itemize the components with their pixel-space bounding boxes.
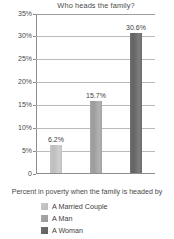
y-axis-tick-label: 0: [0, 170, 32, 177]
y-axis-tick-label: 5%: [0, 147, 32, 154]
y-axis-tick-label: 25%: [0, 55, 32, 62]
legend-item[interactable]: A Woman: [41, 225, 108, 236]
y-axis-tick: [33, 36, 36, 37]
y-axis-tick: [33, 59, 36, 60]
y-axis-tick: [33, 151, 36, 152]
chart-legend: A Married CoupleA ManA Woman: [41, 201, 108, 237]
chart-title: Who heads the family?: [36, 1, 156, 10]
y-axis-tick: [33, 105, 36, 106]
y-axis-tick-label: 30%: [0, 32, 32, 39]
legend-label: A Man: [52, 214, 72, 223]
legend-label: A Woman: [52, 226, 83, 235]
y-axis-tick-label: 20%: [0, 78, 32, 85]
x-axis-line: [36, 173, 155, 174]
bar-a-woman: [130, 33, 142, 173]
y-axis-tick: [33, 128, 36, 129]
bar-value-label: 15.7%: [81, 92, 111, 99]
legend-swatch-icon: [41, 203, 48, 210]
legend-swatch-icon: [41, 227, 48, 234]
legend-item[interactable]: A Married Couple: [41, 201, 108, 212]
y-axis-tick-label: 35%: [0, 10, 32, 17]
legend-label: A Married Couple: [52, 202, 108, 211]
legend-item[interactable]: A Man: [41, 213, 108, 224]
bar-value-label: 6.2%: [41, 136, 71, 143]
chart-figure: Who heads the family? 05%10%15%20%25%30%…: [0, 0, 174, 239]
bar-value-label: 30.6%: [121, 24, 151, 31]
gridline: [36, 14, 155, 15]
y-axis-tick: [33, 14, 36, 15]
bar-a-man: [90, 101, 102, 173]
legend-swatch-icon: [41, 215, 48, 222]
bar-a-married-couple: [50, 145, 62, 173]
y-axis-tick: [33, 82, 36, 83]
y-axis-tick: [33, 174, 36, 175]
y-axis-tick-label: 10%: [0, 124, 32, 131]
x-axis-caption: Percent in poverty when the family is he…: [0, 188, 174, 196]
y-axis-tick-label: 15%: [0, 101, 32, 108]
